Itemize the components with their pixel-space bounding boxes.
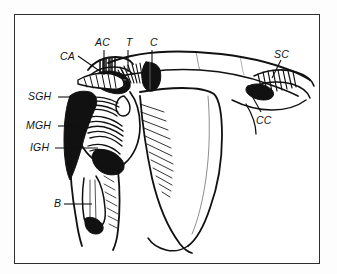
label-sgh: SGH	[28, 90, 51, 102]
label-c: C	[150, 36, 158, 48]
label-ac: AC	[95, 36, 110, 48]
label-igh: IGH	[30, 141, 49, 153]
label-b: B	[54, 197, 61, 209]
label-mgh: MGH	[26, 119, 51, 131]
leader-lines	[0, 0, 337, 274]
label-sc: SC	[274, 48, 289, 60]
leader-SC	[272, 60, 281, 78]
anatomy-figure: CA AC T C SC CC SGH MGH IGH B	[0, 0, 337, 274]
label-t: T	[126, 36, 133, 48]
label-cc: CC	[256, 114, 272, 126]
leader-CA	[78, 56, 104, 74]
leader-CC	[252, 96, 261, 112]
label-ca: CA	[60, 50, 75, 62]
